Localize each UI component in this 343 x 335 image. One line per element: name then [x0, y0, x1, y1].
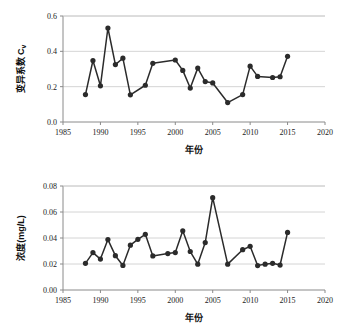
y-tick-label-2: 0.4: [47, 47, 57, 56]
figure-container: 0.00.20.40.61985199019952000200520102015…: [0, 0, 343, 335]
data-point: [173, 250, 178, 255]
data-point: [180, 68, 185, 73]
data-point: [225, 100, 230, 105]
data-point: [165, 251, 170, 256]
x-tick-label-4: 2005: [205, 296, 221, 305]
data-point: [128, 92, 133, 97]
data-point: [285, 230, 290, 235]
data-point: [113, 62, 118, 67]
data-point: [113, 253, 118, 258]
x-tick-label-2: 1995: [130, 128, 146, 137]
data-point: [120, 263, 125, 268]
data-point: [210, 195, 215, 200]
x-tick-label-7: 2020: [317, 296, 333, 305]
data-point: [210, 80, 215, 85]
y-tick-label-2: 0.04: [43, 234, 57, 243]
x-tick-label-6: 2015: [280, 296, 296, 305]
data-point: [143, 232, 148, 237]
y-tick-label-3: 0.6: [47, 12, 57, 21]
data-point: [128, 243, 133, 248]
data-point: [188, 85, 193, 90]
cv-plot-wrapper: 0.00.20.40.61985199019952000200520102015…: [0, 0, 343, 167]
y-tick-label-3: 0.06: [43, 208, 57, 217]
data-point: [248, 244, 253, 249]
x-tick-label-3: 2000: [167, 296, 183, 305]
x-tick-label-4: 2005: [205, 128, 221, 137]
x-tick-group: 19851990199520002005201020152020: [55, 122, 333, 137]
data-point: [203, 240, 208, 245]
data-point: [105, 237, 110, 242]
data-point: [225, 262, 230, 267]
data-point: [98, 256, 103, 261]
data-point: [150, 253, 155, 258]
y-tick-label-0: 0.00: [43, 286, 57, 295]
data-point: [180, 228, 185, 233]
x-tick-label-0: 1985: [55, 128, 71, 137]
y-tick-label-4: 0.08: [43, 182, 57, 191]
data-point: [120, 56, 125, 61]
data-point: [270, 261, 275, 266]
y-tick-group: 0.000.020.040.060.08: [43, 182, 63, 295]
y-axis-title: 变异系数 Cv: [15, 44, 27, 93]
y-axis-title-group: 变异系数 Cv: [15, 44, 27, 93]
data-point-group: [83, 195, 290, 268]
y-tick-label-1: 0.02: [43, 260, 57, 269]
data-point: [285, 54, 290, 59]
x-tick-label-1: 1990: [92, 296, 108, 305]
data-point: [195, 66, 200, 71]
x-tick-label-2: 1995: [130, 296, 146, 305]
data-point: [83, 261, 88, 266]
data-point: [143, 83, 148, 88]
data-point-group: [83, 25, 290, 105]
y-axis-title-group: 浓度(mg/L): [15, 215, 26, 261]
data-point: [248, 64, 253, 69]
data-point: [270, 75, 275, 80]
y-tick-label-1: 0.2: [47, 83, 57, 92]
data-point: [98, 83, 103, 88]
x-tick-label-3: 2000: [167, 128, 183, 137]
data-point: [135, 237, 140, 242]
chart-panel-cv: 0.00.20.40.61985199019952000200520102015…: [0, 0, 343, 167]
concentration-chart-svg: 0.000.020.040.060.0819851990199520002005…: [0, 168, 343, 335]
y-axis-title-subscript: v: [20, 44, 27, 48]
x-tick-label-0: 1985: [55, 296, 71, 305]
data-point: [263, 262, 268, 267]
y-tick-group: 0.00.20.40.6: [47, 12, 63, 127]
chart-panel-concentration: 0.000.020.040.060.0819851990199520002005…: [0, 168, 343, 335]
concentration-plot-wrapper: 0.000.020.040.060.0819851990199520002005…: [0, 168, 343, 335]
data-point: [83, 92, 88, 97]
x-tick-group: 19851990199520002005201020152020: [55, 290, 333, 305]
data-point: [255, 263, 260, 268]
data-point: [203, 79, 208, 84]
data-point: [90, 58, 95, 63]
data-point: [195, 262, 200, 267]
x-tick-label-5: 2010: [242, 296, 258, 305]
data-point: [105, 25, 110, 30]
y-axis-title: 浓度(mg/L): [15, 215, 26, 261]
data-point: [240, 92, 245, 97]
y-tick-label-0: 0.0: [47, 118, 57, 127]
x-tick-label-6: 2015: [280, 128, 296, 137]
data-point: [173, 57, 178, 62]
cv-chart-svg: 0.00.20.40.61985199019952000200520102015…: [0, 0, 343, 167]
data-point: [90, 250, 95, 255]
data-point: [255, 74, 260, 79]
data-point: [240, 247, 245, 252]
data-point: [188, 249, 193, 254]
x-axis-title: 年份: [185, 144, 204, 155]
x-tick-label-1: 1990: [92, 128, 108, 137]
y-axis-title-main: 变异系数 C: [15, 48, 26, 94]
x-tick-label-7: 2020: [317, 128, 333, 137]
data-point: [277, 262, 282, 267]
x-tick-label-5: 2010: [242, 128, 258, 137]
data-point: [277, 74, 282, 79]
x-axis-title: 年份: [185, 312, 204, 323]
data-point: [150, 61, 155, 66]
